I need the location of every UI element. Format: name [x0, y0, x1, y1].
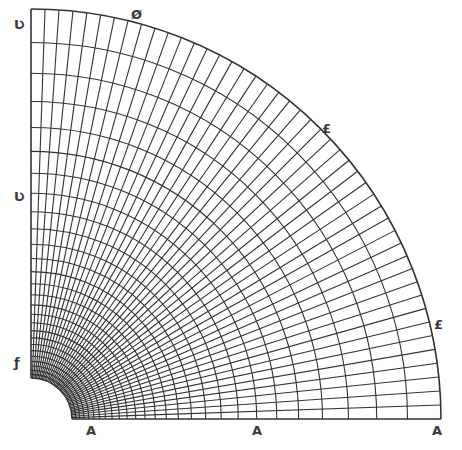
mesh-radial-line: [58, 110, 301, 388]
mesh-radial-line: [69, 256, 407, 403]
mesh-radial-line: [46, 38, 181, 381]
mesh-radial-line: [47, 43, 194, 381]
mesh-radial-line: [69, 269, 412, 404]
marker-arc-top-icon: Ø: [131, 8, 142, 21]
mesh-radial-line: [70, 282, 418, 406]
mesh-radial-line: [38, 15, 101, 379]
marker-bottom-mid-icon: A: [252, 424, 262, 437]
polar-mesh: [0, 0, 462, 450]
mesh-radial-line: [62, 150, 340, 393]
marker-left-inner-icon: ƒ: [14, 356, 20, 369]
marker-arc-lower-icon: £: [434, 318, 443, 331]
marker-bottom-right-icon: A: [432, 424, 442, 437]
mesh-lines: [31, 9, 441, 419]
mesh-radial-line: [60, 129, 321, 390]
mesh-radial-line: [72, 391, 440, 416]
marker-bottom-inner-icon: A: [86, 424, 96, 437]
mesh-radial-line: [34, 10, 59, 378]
mesh-radial-line: [45, 33, 169, 381]
mesh-diagram: ƲƲƒAAAØ££: [0, 0, 462, 450]
marker-top-left-icon: Ʋ: [14, 18, 25, 31]
mesh-radial-line: [71, 349, 435, 412]
marker-left-mid-icon: Ʋ: [14, 190, 25, 203]
marker-arc-upper-icon: £: [322, 122, 331, 135]
